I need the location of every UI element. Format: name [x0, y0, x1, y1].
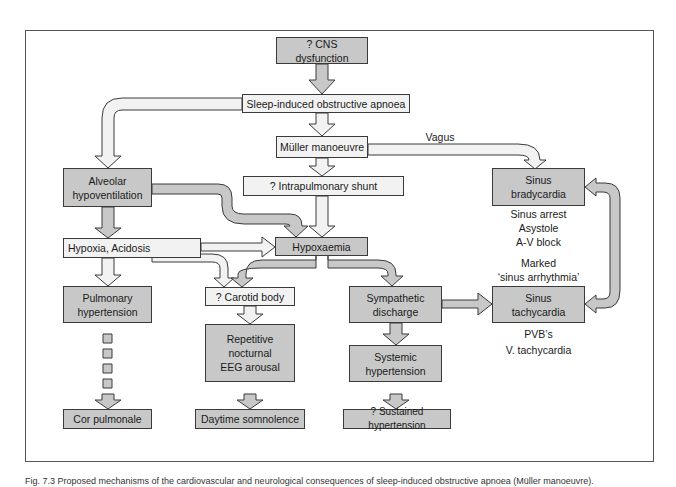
node-systemic-hypertension: Systemic hypertension	[349, 345, 442, 382]
arrow-sympathetic-tachy	[442, 293, 492, 315]
arrow-shunt-hypoxaemia	[309, 196, 335, 237]
node-hypoxia-acidosis: Hypoxia, Acidosis	[63, 238, 201, 258]
arrow-hypoxaemia-carotid	[231, 256, 316, 287]
arrow-hypoxaemia-sympathetic	[328, 256, 403, 286]
arrow-vagus	[368, 144, 546, 169]
node-cor-pulmonale: Cor pulmonale	[63, 409, 152, 429]
arrow-apnoea-alveolar	[95, 98, 242, 168]
label-marked-sinus-arrhythmia: Marked ‘sinus arrhythmia’	[480, 256, 597, 284]
arrow-pulmhtn-cor	[95, 394, 121, 409]
node-pulmonary-hypertension: Pulmonary hypertension	[63, 286, 152, 323]
arrow-eeg-somnolence	[237, 394, 263, 409]
label-bradycardia-notes: Sinus arrest Asystole A-V block	[492, 207, 585, 249]
arrow-muller-shunt	[309, 158, 335, 176]
dash-3	[103, 364, 112, 373]
node-cns-dysfunction: ? CNS dysfunction	[276, 37, 368, 64]
node-sinus-tachycardia: Sinus tachycardia	[492, 286, 585, 323]
dash-1	[103, 334, 112, 343]
arrow-sympathetic-systemic	[383, 323, 409, 345]
node-muller-manoeuvre: Müller manoeuvre	[276, 136, 368, 158]
node-sympathetic-discharge: Sympathetic discharge	[349, 286, 442, 323]
arrow-cns-apnoea	[309, 64, 335, 94]
arrow-alveolar-hypoxia	[95, 207, 121, 238]
dash-4	[103, 379, 112, 388]
arrow-hypoxia-pulmhtn	[95, 258, 121, 286]
node-alveolar-hypoventilation: Alveolar hypoventilation	[63, 168, 152, 207]
node-carotid-body: ? Carotid body	[205, 287, 295, 306]
node-sustained-hypertension: ? Sustained hypertension	[343, 409, 451, 429]
arrow-brady-tachy	[585, 178, 620, 313]
node-eeg-arousal: Repetitive nocturnal EEG arousal	[205, 324, 295, 382]
node-sleep-apnoea: Sleep-induced obstructive apnoea	[242, 94, 410, 113]
label-pvbs: PVB’s	[492, 327, 585, 341]
arrow-apnoea-muller	[309, 113, 335, 136]
arrow-carotid-eeg	[237, 306, 263, 324]
arrow-hypoxia-carotid	[152, 254, 234, 287]
node-daytime-somnolence: Daytime somnolence	[195, 409, 305, 429]
dash-2	[103, 349, 112, 358]
label-v-tachycardia: V. tachycardia	[480, 343, 597, 357]
label-vagus: Vagus	[420, 130, 460, 144]
figure-caption: Fig. 7.3 Proposed mechanisms of the card…	[25, 476, 655, 486]
node-hypoxaemia: Hypoxaemia	[275, 237, 368, 256]
node-intrapulmonary-shunt: ? Intrapulmonary shunt	[243, 176, 404, 196]
node-sinus-bradycardia: Sinus bradycardia	[492, 168, 585, 206]
